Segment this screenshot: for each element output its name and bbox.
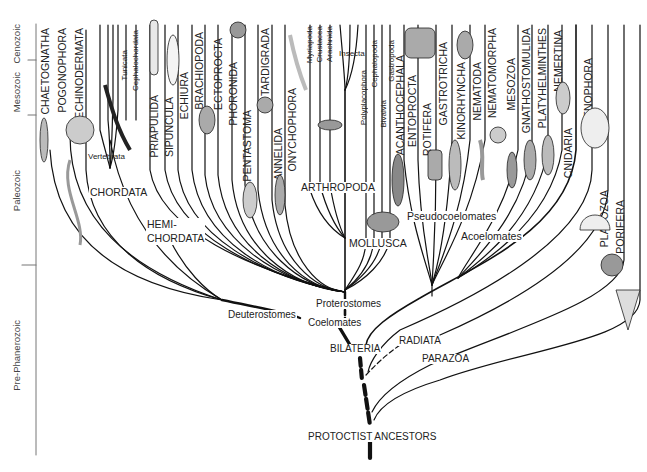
class-label: Insecta [339, 50, 365, 58]
group-arthropoda: ARTHROPODA [300, 182, 376, 193]
subphylum-label: Tunicata [121, 50, 129, 80]
node-parazoa: PARAZOA [421, 354, 470, 364]
group-acoelomates: Acoelomates [460, 231, 523, 242]
phylum-label: GASTROTRICHA [438, 42, 449, 125]
phylum-label: MESOZOA [506, 58, 517, 111]
phylum-label: GNATHOSTOMULIDA [521, 28, 532, 133]
phylum-label: PLATYHELMINTHES [537, 28, 548, 128]
phylum-label: NEMATOMORPHA [487, 28, 498, 118]
phylum-label: ECHINODERMATA [74, 28, 85, 119]
era-pre-phanerozoic: Pre-Phanerozoic [12, 320, 22, 391]
node-bilateria: BILATERIA [329, 344, 381, 354]
node-radiata: RADIATA [398, 336, 442, 346]
class-label: Bivalvia [380, 100, 388, 128]
phylum-label: CHAETOGNATHA [40, 28, 51, 115]
phylum-label: PRIAPULIDA [149, 95, 160, 157]
phylum-label: BRACHIOPODA [194, 32, 205, 110]
phylum-label: PENTASTOMA [242, 110, 253, 181]
phylum-label: KINORHYNCHA [456, 62, 467, 140]
node-proterostomes: Proterostomes [315, 299, 382, 309]
phylogenetic-tree-lines [0, 0, 647, 472]
phylum-label: ONYCHOPHORA [287, 88, 298, 171]
era-paleozoic: Paleozoic [12, 170, 22, 211]
phylum-label: SIPUNCULA [164, 97, 175, 157]
era-mesozoic: Mesozoic [12, 72, 22, 112]
group-chordata: CHORDATA [89, 187, 148, 198]
phylum-label: ROTIFERA [422, 103, 433, 156]
group-hemichordata: HEMI- CHORDATA [146, 218, 205, 245]
subphylum-label: Cephalochordata [132, 30, 140, 91]
phylum-label: POGONOPHORA [57, 28, 68, 113]
phylum-label: CTENOPHORA [583, 58, 594, 132]
phylum-label: ECHIURA [179, 72, 190, 119]
phylum-label: PHORONIDA [228, 62, 239, 126]
group-mollusca: MOLLUSCA [348, 238, 408, 249]
era-cenozoic: Cenozoic [12, 24, 22, 64]
phylum-label: CNIDARIA [563, 128, 574, 178]
class-label: Polyplacophora [360, 70, 368, 125]
phylum-label: PLACOZOA [599, 190, 610, 247]
phylum-label: TARDIGRADA [260, 28, 271, 96]
phylum-label: NEMATODA [472, 62, 483, 121]
class-label: Cephalopoda [371, 40, 379, 88]
phylum-label: NEMERTINA [553, 30, 564, 92]
phylum-label: ENTOPROCTA [407, 75, 418, 147]
class-label: Arachnida [326, 26, 334, 62]
phylum-label: ECTOPROCTA [213, 38, 224, 110]
phylum-label: ANNELIDA [273, 128, 284, 181]
group-pseudocoelomates: Pseudocoelomates [406, 211, 497, 222]
subphylum-label: Vertebrata [88, 153, 125, 161]
node-deuterostomes: Deuterostomes [227, 310, 297, 320]
class-label: Crustacea [316, 26, 324, 62]
node-coelomates: Coelomates [307, 318, 362, 328]
node-protoctist-ancestors: PROTOCTIST ANCESTORS [307, 432, 437, 442]
phylum-label: ACANTHOCEPHALA [395, 55, 406, 155]
phylum-label: PORIFERA [615, 200, 626, 254]
class-label: Myriapoda [306, 26, 314, 63]
